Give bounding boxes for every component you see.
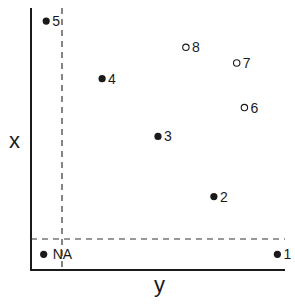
data-point: 5 (43, 13, 61, 29)
data-point: 2 (210, 189, 228, 205)
filled-circle-marker-icon (43, 18, 50, 25)
open-circle-marker-icon (241, 104, 247, 110)
filled-circle-marker-icon (40, 251, 47, 258)
scatter-chart: 12345678NA x y (0, 0, 295, 308)
data-point: 7 (234, 55, 251, 71)
point-label: 8 (192, 39, 200, 55)
filled-circle-marker-icon (210, 193, 217, 200)
point-label: 1 (283, 246, 291, 262)
point-label: 5 (52, 13, 60, 29)
filled-circle-marker-icon (154, 133, 161, 140)
open-circle-marker-icon (183, 44, 189, 50)
data-point: 8 (183, 39, 200, 55)
filled-circle-marker-icon (274, 251, 281, 258)
data-point: 1 (274, 246, 292, 262)
data-point: 3 (154, 128, 172, 144)
x-axis-label: y (154, 272, 165, 297)
point-label: 2 (220, 189, 228, 205)
data-point: 4 (99, 71, 117, 87)
data-point: NA (40, 246, 73, 262)
point-label: 3 (164, 128, 172, 144)
point-label: 4 (108, 71, 116, 87)
filled-circle-marker-icon (99, 75, 106, 82)
data-points: 12345678NA (40, 13, 291, 262)
point-label: NA (53, 246, 73, 262)
y-axis-label: x (9, 128, 20, 153)
point-label: 6 (250, 100, 258, 116)
open-circle-marker-icon (234, 60, 240, 66)
point-label: 7 (243, 55, 251, 71)
data-point: 6 (241, 100, 258, 116)
